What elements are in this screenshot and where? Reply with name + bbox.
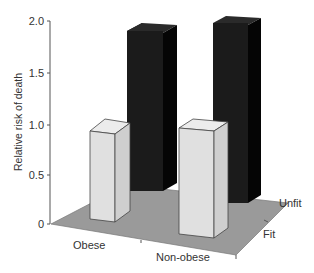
y-tick-1.0: 1.0	[29, 119, 44, 131]
y-tick-0: 0	[38, 218, 44, 230]
y-axis-title: Relative risk of death	[12, 73, 24, 171]
depth-label-fit: Fit	[263, 228, 275, 240]
bar-fit-nonobese	[179, 119, 228, 238]
bar-unfit-obese	[127, 23, 177, 191]
x-label-obese: Obese	[73, 239, 105, 251]
x-label-nonobese: Non-obese	[156, 251, 210, 263]
depth-label-unfit: Unfit	[279, 197, 302, 209]
relative-risk-3d-bar-chart: 2.0 1.5 1.0 0.5 0 Relative risk of death…	[0, 0, 314, 273]
y-axis: 2.0 1.5 1.0 0.5 0 Relative risk of death	[12, 15, 50, 230]
y-tick-2.0: 2.0	[29, 15, 44, 27]
y-tick-0.5: 0.5	[29, 169, 44, 181]
y-tick-1.5: 1.5	[29, 67, 44, 79]
bar-fit-obese	[90, 119, 130, 222]
